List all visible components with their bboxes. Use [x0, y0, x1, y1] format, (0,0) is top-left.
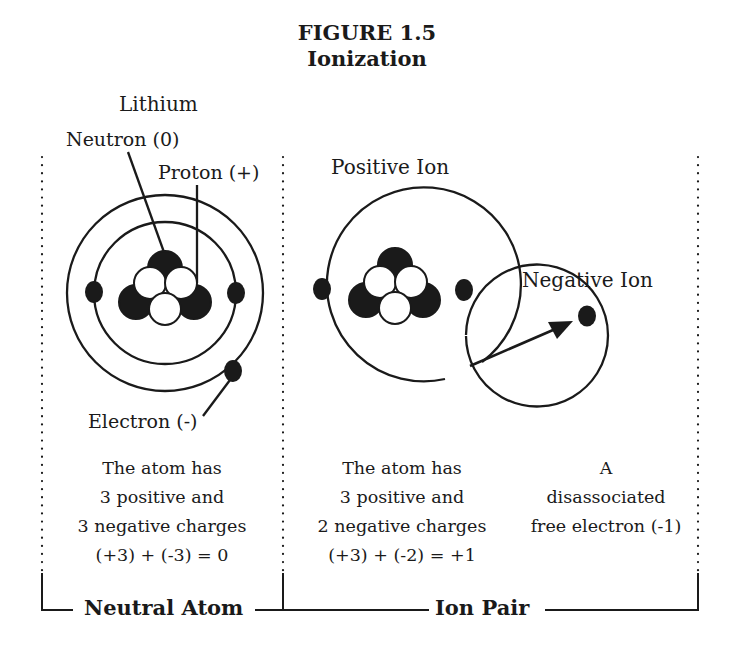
- electron: [224, 360, 242, 382]
- free-electron-description: A disassociated free electron (-1): [516, 454, 696, 541]
- electron: [313, 278, 331, 300]
- ion-pair-label: Ion Pair: [429, 595, 535, 620]
- neutral-atom-label: Neutral Atom: [78, 595, 249, 620]
- electron-label: Electron (-): [88, 410, 198, 432]
- description-line: (+3) + (-3) = 0: [44, 541, 280, 570]
- ejection-arrow-shaft: [470, 327, 560, 366]
- electron: [227, 282, 245, 304]
- description-line: A: [516, 454, 696, 483]
- description-line: 3 negative charges: [44, 512, 280, 541]
- electron: [85, 281, 103, 303]
- description-line: 2 negative charges: [292, 512, 512, 541]
- free-electron: [578, 306, 596, 327]
- description-line: free electron (-1): [516, 512, 696, 541]
- proton: [379, 292, 411, 324]
- description-line: The atom has: [44, 454, 280, 483]
- description-line: (+3) + (-2) = +1: [292, 541, 512, 570]
- positive-ion-description: The atom has 3 positive and 2 negative c…: [292, 454, 512, 570]
- neutral-atom-description: The atom has 3 positive and 3 negative c…: [44, 454, 280, 570]
- negative-ion-label: Negative Ion: [522, 268, 653, 292]
- description-line: disassociated: [516, 483, 696, 512]
- positive-ion-label: Positive Ion: [331, 155, 449, 179]
- neutral-atom-bracket-left: [42, 573, 73, 610]
- description-line: 3 positive and: [44, 483, 280, 512]
- neutron-label: Neutron (0): [66, 128, 179, 150]
- description-line: The atom has: [292, 454, 512, 483]
- lithium-label: Lithium: [119, 92, 198, 116]
- description-line: 3 positive and: [292, 483, 512, 512]
- electron: [455, 279, 473, 301]
- proton-label: Proton (+): [158, 161, 259, 183]
- ion-pair-bracket-right: [545, 573, 698, 610]
- proton: [149, 293, 181, 325]
